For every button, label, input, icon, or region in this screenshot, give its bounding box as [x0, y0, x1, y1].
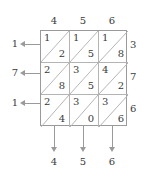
left-arrow-head-icon-2 [20, 100, 25, 106]
column-header-1: 5 [76, 16, 90, 26]
down-arrow-head-icon-2 [109, 147, 115, 152]
down-arrow-line-2 [112, 126, 113, 148]
lattice-cell-r2-c0: 2 4 [41, 95, 70, 127]
left-label-0: 1 [6, 39, 18, 49]
cell-lower-digit: 8 [59, 81, 65, 91]
cell-lower-digit: 0 [88, 114, 94, 124]
cell-lower-digit: 4 [59, 114, 65, 124]
lattice-cell-r1-c0: 2 8 [41, 63, 70, 95]
down-arrow-line-1 [83, 126, 84, 148]
lattice-cell-r0-c2: 1 8 [99, 31, 128, 63]
right-label-2: 6 [130, 104, 142, 114]
cell-upper-digit: 2 [44, 97, 50, 107]
cell-lower-digit: 5 [88, 49, 94, 59]
left-label-2: 1 [6, 98, 18, 108]
lattice-cell-r1-c1: 3 5 [70, 63, 99, 95]
bottom-label-0: 4 [47, 157, 61, 167]
cell-lower-digit: 6 [118, 114, 124, 124]
cell-lower-digit: 2 [59, 49, 65, 59]
left-arrow-head-icon-1 [20, 70, 25, 76]
cell-upper-digit: 1 [44, 33, 50, 43]
lattice-grid: 1 2 1 5 1 8 2 8 [40, 30, 127, 126]
down-arrow-line-0 [54, 126, 55, 148]
down-arrow-head-icon-1 [80, 147, 86, 152]
cell-upper-digit: 1 [73, 33, 79, 43]
lattice-cell-r2-c1: 3 0 [70, 95, 99, 127]
down-arrow-head-icon-0 [51, 147, 57, 152]
cell-lower-digit: 8 [118, 49, 124, 59]
bottom-label-2: 6 [105, 157, 119, 167]
cell-lower-digit: 5 [88, 81, 94, 91]
lattice-multiplication-diagram: 4 5 6 1 2 1 5 1 8 [0, 0, 159, 172]
cell-upper-digit: 3 [73, 65, 79, 75]
cell-upper-digit: 4 [102, 65, 108, 75]
cell-upper-digit: 3 [102, 97, 108, 107]
column-header-2: 6 [105, 16, 119, 26]
column-header-0: 4 [47, 16, 61, 26]
lattice-cell-r0-c1: 1 5 [70, 31, 99, 63]
left-arrow-head-icon-0 [20, 41, 25, 47]
cell-lower-digit: 2 [118, 81, 124, 91]
bottom-label-1: 5 [76, 157, 90, 167]
lattice-cell-r1-c2: 4 2 [99, 63, 128, 95]
right-label-1: 7 [130, 72, 142, 82]
cell-upper-digit: 1 [102, 33, 108, 43]
lattice-cell-r0-c0: 1 2 [41, 31, 70, 63]
left-label-1: 7 [6, 68, 18, 78]
cell-upper-digit: 2 [44, 65, 50, 75]
right-label-0: 3 [130, 40, 142, 50]
lattice-cell-r2-c2: 3 6 [99, 95, 128, 127]
cell-upper-digit: 3 [73, 97, 79, 107]
